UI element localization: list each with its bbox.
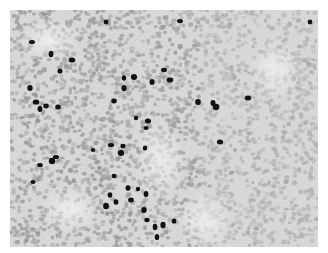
stained-nucleus: [114, 199, 119, 205]
stained-nucleus: [153, 224, 158, 230]
stained-nucleus: [103, 203, 109, 210]
tissue-image: [10, 10, 318, 247]
stained-nucleus: [121, 85, 126, 91]
stained-nucleus: [143, 126, 148, 130]
stained-nucleus: [91, 148, 96, 152]
micrograph: [10, 10, 318, 247]
stained-nucleus: [118, 150, 124, 156]
stained-nucleus: [104, 20, 109, 25]
stained-nucleus: [144, 191, 149, 197]
stained-nucleus: [150, 79, 155, 85]
stained-nucleus: [49, 51, 54, 57]
stained-nucleus: [112, 174, 117, 179]
stained-nucleus: [177, 19, 183, 23]
stained-nucleus: [195, 99, 201, 105]
stained-nucleus: [120, 144, 125, 148]
stained-nucleus: [27, 85, 32, 91]
stained-nucleus: [33, 99, 40, 104]
stained-nucleus: [131, 74, 137, 80]
stained-nucleus: [213, 104, 219, 110]
stained-nucleus: [134, 116, 138, 121]
stained-nucleus: [122, 75, 126, 80]
stained-nucleus: [49, 158, 55, 165]
stained-nucleus: [128, 198, 134, 203]
stained-nucleus: [108, 143, 114, 147]
stained-nucleus: [217, 140, 223, 145]
stained-nucleus: [108, 192, 113, 197]
stained-nucleus: [145, 119, 151, 124]
stained-nucleus: [172, 218, 177, 223]
stained-nucleus: [55, 105, 61, 110]
stained-nucleus: [160, 222, 165, 228]
stained-nucleus: [144, 218, 149, 222]
stained-nucleus: [308, 20, 313, 25]
stained-nucleus: [155, 234, 160, 240]
stained-nucleus: [58, 68, 63, 73]
stained-nucleus: [37, 163, 43, 167]
stained-nucleus: [126, 185, 131, 190]
stained-nucleus: [29, 40, 35, 44]
stained-nucleus: [136, 187, 140, 191]
stained-nucleus: [167, 78, 174, 83]
stained-nucleus: [111, 99, 117, 104]
stained-nucleus: [43, 104, 49, 109]
stained-nucleus: [245, 96, 251, 101]
stained-nucleus: [31, 180, 36, 184]
stained-nucleus: [161, 68, 167, 72]
stained-nucleus: [69, 58, 76, 63]
stained-nucleus: [143, 146, 148, 151]
stained-nucleus: [141, 207, 146, 213]
stained-nucleus: [38, 106, 43, 112]
